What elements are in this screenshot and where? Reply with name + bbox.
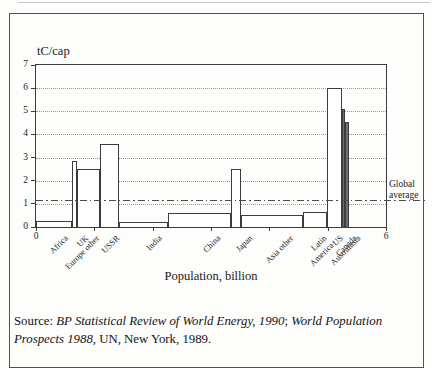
y-tick-label: 2 — [14, 175, 28, 186]
plot-frame — [35, 64, 387, 228]
y-axis-title: tC/cap — [37, 44, 70, 59]
y-tick-label: 0 — [14, 221, 28, 232]
global-average-line — [36, 200, 426, 201]
bar-us — [327, 88, 342, 227]
global-average-label: Global average — [389, 179, 429, 200]
x-tick — [328, 227, 329, 231]
y-tick — [31, 180, 36, 181]
y-tick-label: 5 — [14, 105, 28, 116]
y-tick — [31, 111, 36, 112]
bar-africa — [36, 221, 72, 227]
y-tick — [31, 203, 36, 204]
x-axis-label: Population, billion — [35, 269, 387, 284]
y-tick-label: 6 — [14, 82, 28, 93]
source-title-energy: BP Statistical Review of World Energy, 1… — [56, 314, 284, 328]
y-tick-label: 1 — [14, 198, 28, 209]
source-prefix: Source: — [14, 314, 56, 328]
x-tick-label: 6 — [377, 231, 395, 242]
bar-latin-america — [303, 212, 327, 227]
y-tick-label: 7 — [14, 59, 28, 70]
source-citation: Source: BP Statistical Review of World E… — [14, 313, 418, 348]
x-tick — [269, 227, 270, 231]
y-tick-label: 3 — [14, 152, 28, 163]
bar-asia-other — [241, 215, 303, 227]
y-tick — [31, 157, 36, 158]
bar-australasia — [345, 122, 349, 227]
x-tick-label: 0 — [27, 231, 45, 242]
x-tick — [153, 227, 154, 231]
source-suffix: , UN, New York, 1989. — [93, 332, 211, 346]
page-crop-line — [18, 2, 430, 3]
bar-india — [119, 222, 168, 227]
x-tick — [94, 227, 95, 231]
y-tick — [31, 65, 36, 66]
x-tick — [211, 227, 212, 231]
bar-ussr — [100, 144, 119, 227]
y-tick — [31, 134, 36, 135]
y-tick — [31, 88, 36, 89]
bar-china — [168, 213, 231, 227]
source-title-population-part1: World Population — [291, 314, 382, 328]
bar-europe-other — [77, 169, 100, 227]
bar-japan — [231, 169, 241, 227]
source-title-population-part2: Prospects 1988 — [14, 332, 93, 346]
y-tick-label: 4 — [14, 128, 28, 139]
